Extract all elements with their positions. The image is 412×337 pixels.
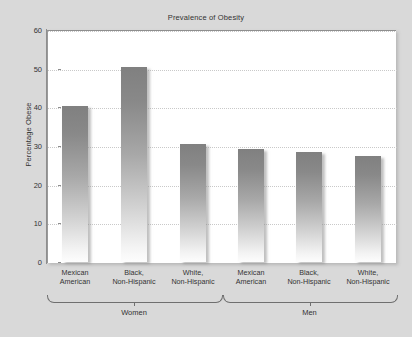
x-tick-label-line: American [220,277,282,286]
bar [238,149,264,262]
x-tick-label-line: Non-Hispanic [103,277,165,286]
x-tick-label-line: White, [162,268,224,277]
y-tick-mark [58,223,61,224]
bar [180,144,206,262]
chart-figure: Prevalence of Obesity 0102030405060 Perc… [0,0,412,337]
x-tick-label: MexicanAmerican [44,268,106,287]
x-tick-label: White,Non-Hispanic [162,268,224,287]
x-tick-label: Black,Non-Hispanic [103,268,165,287]
x-tick-label-line: Non-Hispanic [162,277,224,286]
x-tick-label-line: White, [337,268,399,277]
x-tick-label-line: Black, [103,268,165,277]
x-tick-label-line: Black, [278,268,340,277]
bar [121,67,147,262]
bar [296,152,322,262]
gridline [48,147,397,148]
bar [355,156,381,262]
gridline [48,108,397,109]
group-bracket-tick [134,302,135,306]
y-tick-mark [58,146,61,147]
group-bracket-tick [310,302,311,306]
gridline [48,70,397,71]
group-label: Men [203,308,412,317]
y-tick-mark [58,69,61,70]
y-tick-label: 10 [20,219,42,228]
x-tick-label-line: American [44,277,106,286]
y-tick-label: 0 [20,258,42,267]
y-tick-mark [58,107,61,108]
x-tick-label: White,Non-Hispanic [337,268,399,287]
x-tick-label-line: Mexican [44,268,106,277]
gridline [48,31,397,32]
plot-area [47,30,396,263]
gridline [48,186,397,187]
x-tick-label-line: Mexican [220,268,282,277]
y-tick-mark [58,262,61,263]
y-tick-mark [58,185,61,186]
gridline [48,224,397,225]
x-tick-label-line: Non-Hispanic [337,277,399,286]
x-tick-label: MexicanAmerican [220,268,282,287]
y-tick-label: 60 [20,26,42,35]
chart-title: Prevalence of Obesity [0,13,412,22]
x-tick-label: Black,Non-Hispanic [278,268,340,287]
y-axis-title: Percentage Obese [24,65,33,205]
y-axis-line [46,29,47,264]
bar [62,106,88,262]
y-tick-mark [58,30,61,31]
x-tick-label-line: Non-Hispanic [278,277,340,286]
